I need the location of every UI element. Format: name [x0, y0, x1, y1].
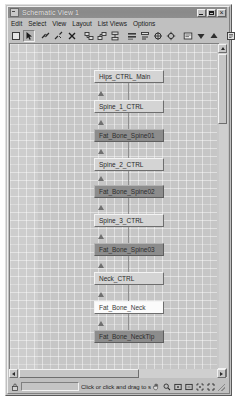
- node-label: Fat_Bone_NeckTip: [99, 333, 154, 341]
- system-menu-icon[interactable]: [10, 8, 19, 17]
- screenshot-root: Schematic View 1 Edit Select View Layout…: [0, 0, 237, 410]
- edge-link: [128, 227, 129, 244]
- zoom-extents-icon[interactable]: [184, 382, 194, 392]
- link-arrow-icon: [98, 234, 104, 239]
- node-fat-bone-spine02[interactable]: Fat_Bone_Spine02: [94, 185, 164, 198]
- display-floater-icon[interactable]: [10, 30, 22, 42]
- schematic-view-window: Schematic View 1 Edit Select View Layout…: [5, 4, 232, 396]
- shrink-selected-icon[interactable]: [195, 30, 207, 42]
- node-spine-2-ctrl[interactable]: Spine_2_CTRL: [94, 158, 164, 171]
- link-arrow-icon: [98, 120, 104, 125]
- toolbar: [8, 29, 227, 42]
- menu-item-select[interactable]: Select: [28, 20, 46, 28]
- link-arrow-icon: [98, 91, 104, 96]
- statusbar: Click or click and drag to select: [8, 380, 227, 393]
- expand-all-icon[interactable]: [109, 30, 121, 42]
- free-selected-icon[interactable]: [165, 30, 177, 42]
- node-label: Fat_Bone_Neck: [99, 304, 146, 312]
- collapse-selected-icon[interactable]: [96, 30, 108, 42]
- close-button[interactable]: [217, 9, 226, 17]
- edge-link: [128, 198, 129, 215]
- horizontal-scroll-thumb[interactable]: [19, 369, 139, 378]
- node-neck-ctrl[interactable]: Neck_CTRL: [94, 272, 164, 285]
- edge-link: [128, 113, 129, 130]
- window-title: Schematic View 1: [22, 9, 197, 17]
- link-arrow-icon: [98, 263, 104, 268]
- titlebar[interactable]: Schematic View 1: [8, 7, 227, 18]
- edge-link: [128, 256, 129, 273]
- delete-object-icon[interactable]: [66, 30, 78, 42]
- node-spine-3-ctrl[interactable]: Spine_3_CTRL: [94, 214, 164, 227]
- vertical-scrollbar[interactable]: [219, 43, 228, 378]
- zoom-region-icon[interactable]: [173, 382, 183, 392]
- schematic-canvas[interactable]: Hips_CTRL_Main Spine_1_CTRL Fat_Bone_Spi…: [10, 44, 217, 369]
- node-label: Fat_Bone_Spine02: [99, 188, 155, 196]
- link-arrow-icon: [98, 205, 104, 210]
- always-arrange-icon[interactable]: [182, 30, 194, 42]
- node-label: Hips_CTRL_Main: [99, 73, 150, 81]
- unlink-icon[interactable]: [53, 30, 65, 42]
- edge-link: [128, 285, 129, 302]
- menu-item-options[interactable]: Options: [133, 20, 155, 28]
- vertical-scroll-thumb[interactable]: [218, 54, 227, 124]
- horizontal-scrollbar[interactable]: [9, 369, 226, 378]
- menu-item-view[interactable]: View: [52, 20, 66, 28]
- status-tools: [151, 382, 216, 392]
- menu-item-list-views[interactable]: List Views: [98, 20, 127, 28]
- edge-link: [128, 314, 129, 331]
- node-fat-bone-spine03[interactable]: Fat_Bone_Spine03: [94, 243, 164, 256]
- node-label: Fat_Bone_Spine01: [99, 132, 155, 140]
- status-text-field[interactable]: [21, 382, 79, 391]
- pan-hand-icon[interactable]: [151, 382, 161, 392]
- edge-link: [128, 142, 129, 159]
- node-label: Spine_1_CTRL: [99, 103, 143, 111]
- expand-selected-icon[interactable]: [83, 30, 95, 42]
- menu-item-layout[interactable]: Layout: [72, 20, 92, 28]
- titlebar-buttons: [197, 9, 226, 17]
- maximize-viewport-icon[interactable]: [206, 382, 216, 392]
- node-hips-ctrl-main[interactable]: Hips_CTRL_Main: [94, 70, 164, 83]
- status-hint: Click or click and drag to select: [81, 383, 151, 391]
- node-fat-bone-spine01[interactable]: Fat_Bone_Spine01: [94, 129, 164, 142]
- connect-link-icon[interactable]: [40, 30, 52, 42]
- node-label: Spine_3_CTRL: [99, 217, 143, 225]
- node-label: Neck_CTRL: [99, 275, 134, 283]
- maximize-button[interactable]: [207, 9, 216, 17]
- menu-item-edit[interactable]: Edit: [11, 20, 22, 28]
- link-arrow-icon: [98, 149, 104, 154]
- align-vertical-icon[interactable]: [139, 30, 151, 42]
- edge-link: [128, 171, 129, 186]
- link-arrow-icon: [98, 292, 104, 297]
- align-horizontal-icon[interactable]: [126, 30, 138, 42]
- scroll-right-arrow-icon[interactable]: [217, 369, 226, 378]
- selection-lock-icon[interactable]: [10, 382, 19, 391]
- link-arrow-icon: [98, 176, 104, 181]
- resize-grip-icon[interactable]: [217, 383, 225, 391]
- node-fat-bone-neck[interactable]: Fat_Bone_Neck: [94, 301, 164, 314]
- minimize-button[interactable]: [197, 9, 206, 17]
- node-spine-1-ctrl[interactable]: Spine_1_CTRL: [94, 100, 164, 113]
- expand-node-icon[interactable]: [208, 30, 220, 42]
- node-label: Spine_2_CTRL: [99, 161, 143, 169]
- scroll-up-arrow-icon[interactable]: [218, 44, 227, 53]
- link-arrow-icon: [98, 321, 104, 326]
- free-all-icon[interactable]: [152, 30, 164, 42]
- scroll-left-arrow-icon[interactable]: [9, 369, 18, 378]
- menubar: Edit Select View Layout List Views Optio…: [8, 19, 227, 28]
- node-label: Fat_Bone_Spine03: [99, 246, 155, 254]
- schematic-canvas-viewport[interactable]: Hips_CTRL_Main Spine_1_CTRL Fat_Bone_Spi…: [9, 43, 226, 378]
- zoom-magnifier-icon[interactable]: [162, 382, 172, 392]
- node-fat-bone-necktip[interactable]: Fat_Bone_NeckTip: [94, 330, 164, 343]
- edge-link: [128, 83, 129, 101]
- select-arrow-icon[interactable]: [23, 30, 35, 42]
- preferences-icon[interactable]: [225, 30, 237, 42]
- zoom-extents-selected-icon[interactable]: [195, 382, 205, 392]
